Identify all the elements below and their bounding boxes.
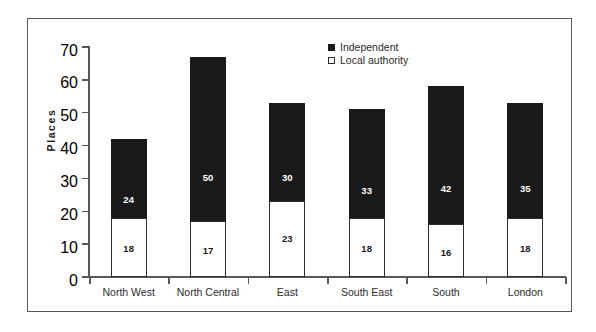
y-tick-label-60: 60: [52, 74, 78, 85]
bar-segment: 18: [349, 218, 385, 277]
chart-plot-area: Places 010203040506070 North WestNorth C…: [0, 0, 596, 332]
bar-value-label: 50: [191, 173, 225, 183]
y-tick-label-70: 70: [52, 42, 78, 53]
x-tick-5: [486, 277, 488, 284]
y-axis-title: Places: [45, 90, 57, 170]
bar-segment: 23: [269, 201, 305, 277]
legend-label-local-authority: Local authority: [340, 54, 408, 67]
outline-square-icon: [328, 57, 335, 64]
bar-value-label: 24: [112, 195, 146, 205]
chart-screenshot: Places 010203040506070 North WestNorth C…: [0, 0, 596, 332]
bar-value-label: 33: [350, 186, 384, 196]
legend-item-independent: Independent: [328, 41, 408, 54]
category-label-5: London: [486, 287, 565, 298]
x-tick-2: [248, 277, 250, 284]
y-tick-50: [82, 112, 90, 114]
y-tick-20: [82, 211, 90, 213]
category-label-2: East: [248, 287, 327, 298]
category-label-3: South East: [327, 287, 406, 298]
category-label-1: North Central: [168, 287, 247, 298]
bar-value-label: 18: [112, 244, 146, 254]
y-tick-label-20: 20: [52, 206, 78, 217]
bar-segment: 16: [428, 224, 464, 277]
y-tick-40: [82, 145, 90, 147]
category-label-0: North West: [89, 287, 168, 298]
bar-segment: 18: [111, 218, 147, 277]
y-tick-label-0: 0: [52, 272, 78, 283]
legend-label-independent: Independent: [340, 41, 398, 54]
bar-value-label: 35: [508, 184, 542, 194]
bar-segment: 33: [349, 109, 385, 217]
x-tick-0: [89, 277, 91, 284]
x-tick-4: [406, 277, 408, 284]
bar-value-label: 30: [270, 173, 304, 183]
x-tick-3: [327, 277, 329, 284]
y-tick-label-10: 10: [52, 239, 78, 250]
bar-value-label: 18: [350, 244, 384, 254]
bar-segment: 42: [428, 86, 464, 224]
bar-segment: 24: [111, 139, 147, 218]
bar-segment: 17: [190, 221, 226, 277]
bar-segment: 30: [269, 103, 305, 202]
y-tick-60: [82, 79, 90, 81]
bar-segment: 35: [507, 103, 543, 218]
bar-value-label: 17: [191, 246, 225, 256]
bar-value-label: 42: [429, 184, 463, 194]
bar-value-label: 23: [270, 234, 304, 244]
x-tick-1: [168, 277, 170, 284]
chart-legend: Independent Local authority: [328, 41, 408, 67]
bar-segment: 50: [190, 57, 226, 221]
legend-item-local-authority: Local authority: [328, 54, 408, 67]
y-tick-10: [82, 243, 90, 245]
y-tick-70: [82, 46, 90, 48]
filled-square-icon: [328, 44, 335, 51]
y-tick-label-40: 40: [52, 140, 78, 151]
bar-segment: 18: [507, 218, 543, 277]
category-label-4: South: [406, 287, 485, 298]
y-tick-30: [82, 178, 90, 180]
bar-value-label: 16: [429, 248, 463, 258]
bar-value-label: 18: [508, 244, 542, 254]
y-tick-label-30: 30: [52, 173, 78, 184]
y-tick-label-50: 50: [52, 107, 78, 118]
x-tick-6: [565, 277, 567, 284]
